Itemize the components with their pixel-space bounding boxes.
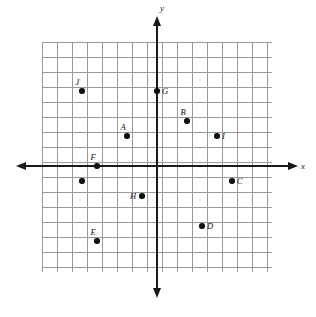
point-D xyxy=(199,223,204,228)
coordinate-plane-figure: xy JGBAIFCHDE xyxy=(0,0,316,317)
point-label-B: B xyxy=(181,108,186,117)
point-label-I: I xyxy=(222,132,225,141)
point-label-D: D xyxy=(207,222,213,231)
point-label-J: J xyxy=(76,78,80,87)
point-H xyxy=(139,193,144,198)
point-E xyxy=(94,238,99,243)
point-G xyxy=(154,88,159,93)
point-J xyxy=(79,88,84,93)
point-label-F: F xyxy=(91,153,96,162)
point-F xyxy=(94,163,99,168)
point-unlabeled xyxy=(79,178,84,183)
point-label-C: C xyxy=(237,177,243,186)
point-C xyxy=(229,178,234,183)
point-label-G: G xyxy=(162,87,168,96)
plotted-points: JGBAIFCHDE xyxy=(0,0,316,317)
point-B xyxy=(184,118,189,123)
point-label-E: E xyxy=(91,228,96,237)
point-A xyxy=(124,133,129,138)
point-label-A: A xyxy=(121,123,126,132)
point-label-H: H xyxy=(130,192,136,201)
point-I xyxy=(214,133,219,138)
